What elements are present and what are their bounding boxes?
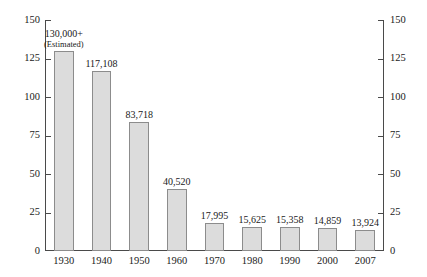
x-axis-category-label: 1930: [45, 255, 83, 267]
y-axis-left-tick-label: 25: [30, 207, 41, 218]
bar-group[interactable]: 15,358: [280, 20, 300, 251]
bar-value-text: 15,625: [238, 214, 266, 225]
bar[interactable]: [355, 230, 375, 251]
bar[interactable]: [92, 71, 112, 251]
y-axis-right-tick-label: 125: [390, 53, 406, 64]
bar-group[interactable]: 83,718: [129, 20, 149, 251]
x-axis-category-label: 1970: [196, 255, 234, 267]
y-axis-right-tick-label: 100: [390, 92, 406, 103]
bar-group[interactable]: 15,625: [242, 20, 262, 251]
bar-value-label: 15,625: [238, 214, 266, 225]
x-axis-category-label: 2000: [309, 255, 347, 267]
y-axis-right-tick-label: 25: [390, 207, 401, 218]
x-axis-category-label: 1960: [158, 255, 196, 267]
bar[interactable]: [280, 227, 300, 251]
bar-value-label: 13,924: [351, 217, 379, 228]
x-axis-category-label: 1940: [83, 255, 121, 267]
y-axis-left-tick-label: 0: [35, 246, 40, 257]
y-axis-left-tick-label: 75: [30, 130, 41, 141]
bar[interactable]: [54, 51, 74, 251]
bar-value-label: 117,108: [85, 58, 117, 69]
bar-value-text: 14,859: [314, 215, 342, 226]
bar-value-label: 15,358: [276, 214, 304, 225]
x-axis-category-labels: 193019401950196019701980199020002007: [45, 255, 384, 271]
x-axis-category-label: 1980: [233, 255, 271, 267]
bar-value-label: 130,000+(Estimated): [44, 28, 84, 49]
y-axis-right-tick-label: 150: [390, 15, 406, 26]
bar-group[interactable]: 14,859: [318, 20, 338, 251]
bar-value-text: 15,358: [276, 214, 304, 225]
bar-chart: 00252550507575100100125125150150 130,000…: [0, 0, 427, 277]
bar-value-text: 83,718: [125, 109, 153, 120]
bar[interactable]: [205, 223, 225, 251]
bar-value-text: 13,924: [351, 217, 379, 228]
y-axis-left-tick-label: 50: [30, 169, 41, 180]
bar-value-text: 117,108: [85, 58, 117, 69]
x-axis-category-label: 2007: [346, 255, 384, 267]
bars-container: 130,000+(Estimated)117,10883,71840,52017…: [45, 20, 384, 251]
y-axis-right-tick-label: 75: [390, 130, 401, 141]
bar-group[interactable]: 117,108: [92, 20, 112, 251]
bar-group[interactable]: 13,924: [355, 20, 375, 251]
bar-value-label: 40,520: [163, 176, 191, 187]
bar-value-text: 130,000+: [45, 28, 83, 39]
bar-value-label: 17,995: [201, 210, 229, 221]
bar-group[interactable]: 40,520: [167, 20, 187, 251]
bar-group[interactable]: 130,000+(Estimated): [54, 20, 74, 251]
bar-value-text: 40,520: [163, 176, 191, 187]
y-axis-left-tick-label: 150: [24, 15, 40, 26]
bar-group[interactable]: 17,995: [205, 20, 225, 251]
y-axis-left-tick-label: 100: [24, 92, 40, 103]
y-axis-right-tick-label: 0: [390, 246, 395, 257]
bar-value-label: 14,859: [314, 215, 342, 226]
bar-value-sublabel: (Estimated): [44, 39, 84, 49]
bar-value-label: 83,718: [125, 109, 153, 120]
bar[interactable]: [242, 227, 262, 251]
y-axis-right-tick-label: 50: [390, 169, 401, 180]
y-axis-left-tick-label: 125: [24, 53, 40, 64]
bar-value-text: 17,995: [201, 210, 229, 221]
bar[interactable]: [318, 228, 338, 251]
bar[interactable]: [167, 189, 187, 251]
x-axis-category-label: 1950: [120, 255, 158, 267]
x-axis-category-label: 1990: [271, 255, 309, 267]
bar[interactable]: [129, 122, 149, 251]
